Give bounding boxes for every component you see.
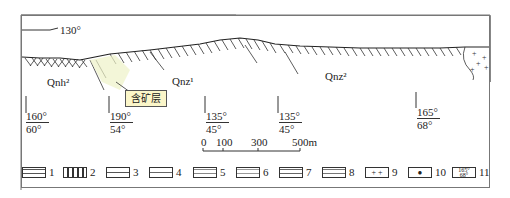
legend-item-1: 1 [22, 166, 55, 178]
svg-text:+: + [472, 49, 477, 58]
legend-item-2: 2 [63, 166, 96, 178]
scale-tick-300: 300 [251, 136, 268, 148]
attitude-symbol-icon: 165°68° [452, 167, 476, 178]
svg-text:+: + [482, 53, 487, 62]
svg-text:+: + [470, 65, 475, 74]
legend-swatch-icon [63, 167, 87, 178]
legend-swatch-icon [236, 167, 260, 178]
legend-swatch-icon [106, 167, 130, 178]
legend-swatch-icon [193, 167, 217, 178]
ore-layer-callout: 含矿层 [125, 90, 167, 107]
scale-tick-500: 500m [292, 136, 317, 148]
legend-item-11: 165°68°11 [452, 166, 490, 178]
legend-item-5: 5 [193, 166, 226, 178]
legend-swatch-icon [22, 167, 46, 178]
svg-text:+: + [476, 59, 481, 68]
unit-label-qnh2: Qnh² [47, 76, 69, 88]
top-strike-label: 130° [60, 24, 81, 36]
legend-item-6: 6 [236, 166, 269, 178]
legend-swatch-icon [149, 167, 173, 178]
scale-tick-0: 0 [201, 136, 207, 148]
drop-symbol-icon: ● [408, 167, 432, 178]
legend-item-7: 7 [279, 166, 312, 178]
legend-item-9: + +9 [365, 166, 398, 178]
attitude-4: 135°45° [279, 110, 302, 135]
scale-tick-100: 100 [216, 136, 233, 148]
legend-item-4: 4 [149, 166, 182, 178]
legend-item-8: 8 [322, 166, 355, 178]
ground-surface [22, 38, 490, 60]
attitude-2: 190°54° [110, 110, 133, 135]
unit-label-qnz1: Qnz¹ [172, 75, 194, 87]
attitude-3: 135°45° [206, 110, 229, 135]
attitude-5: 165°68° [417, 106, 440, 131]
unit-label-qnz2: Qnz² [325, 70, 347, 82]
svg-text:+: + [484, 63, 489, 72]
attitude-1: 160°60° [26, 110, 49, 135]
bedding-hatch [25, 38, 461, 90]
legend-swatch-icon [322, 167, 346, 178]
legend-item-10: ●10 [408, 166, 446, 178]
legend-swatch-icon [279, 167, 303, 178]
granite-cross-icon: + + [365, 167, 389, 178]
legend-item-3: 3 [106, 166, 139, 178]
